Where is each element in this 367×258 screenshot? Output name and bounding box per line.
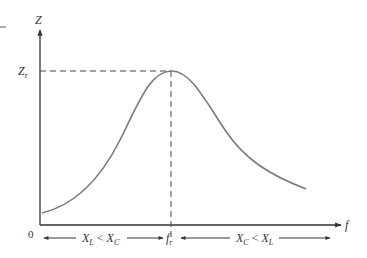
zr-label: Zr — [18, 64, 29, 80]
impedance-curve — [42, 71, 306, 213]
origin-label: 0 — [28, 228, 34, 240]
right-region-label: XC < XL — [235, 231, 274, 247]
x-axis-label: f — [345, 218, 350, 232]
y-axis-label: Z — [35, 13, 42, 27]
left-region-label: XL < XC — [81, 231, 120, 247]
impedance-diagram: Z Zr f 0 fr XL < XC XC < XL — [0, 0, 367, 258]
fr-label: fr — [166, 231, 173, 247]
